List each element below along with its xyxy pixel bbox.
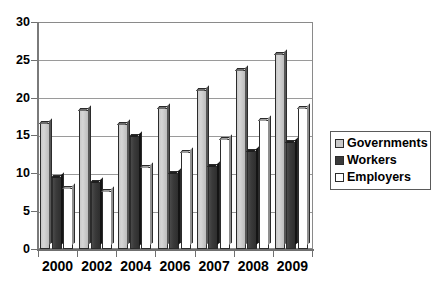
- x-tick-4: [195, 251, 196, 257]
- x-tick-2: [116, 251, 117, 257]
- legend-label-governments: Governments: [347, 137, 428, 150]
- gridline-15: [38, 136, 312, 137]
- gridline-10: [38, 174, 312, 175]
- y-axis-labels: 30 25 20 15 10 5 0: [0, 0, 30, 288]
- y-tick-15: [31, 135, 37, 136]
- legend-item-workers: Workers: [335, 152, 426, 168]
- legend-swatch-employers-icon: [335, 173, 344, 182]
- y-axis-label-5: 5: [2, 205, 30, 218]
- y-axis-label-30: 30: [2, 16, 30, 29]
- gridline-25: [38, 60, 312, 61]
- x-tick-1: [77, 251, 78, 257]
- y-axis-label-10: 10: [2, 167, 30, 180]
- plot-area: [37, 22, 313, 249]
- x-tick-5: [234, 251, 235, 257]
- legend-item-governments: Governments: [335, 135, 426, 151]
- y-tick-20: [31, 98, 37, 99]
- y-tick-5: [31, 211, 37, 212]
- x-axis-label-2006: 2006: [155, 259, 194, 273]
- legend-label-employers: Employers: [347, 171, 411, 184]
- x-axis-label-2002: 2002: [77, 259, 116, 273]
- gridline-20: [38, 98, 312, 99]
- legend-item-employers: Employers: [335, 169, 426, 185]
- legend-label-workers: Workers: [347, 154, 397, 167]
- y-axis-label-25: 25: [2, 54, 30, 67]
- y-tick-25: [31, 60, 37, 61]
- y-axis-label-15: 15: [2, 129, 30, 142]
- x-axis-label-2004: 2004: [116, 259, 155, 273]
- y-axis-label-0: 0: [2, 243, 30, 256]
- x-axis-label-2009: 2009: [273, 259, 312, 273]
- x-tick-3: [155, 251, 156, 257]
- x-axis-label-2000: 2000: [38, 259, 77, 273]
- x-tick-0: [38, 251, 39, 257]
- x-axis-label-2007: 2007: [195, 259, 234, 273]
- y-tick-10: [31, 173, 37, 174]
- y-tick-30: [31, 22, 37, 23]
- chart-legend: Governments Workers Employers: [330, 131, 431, 190]
- bar-chart: 30 25 20 15 10 5 0 200020022004200620072…: [0, 0, 437, 288]
- gridline-5: [38, 212, 312, 213]
- legend-swatch-workers-icon: [335, 156, 344, 165]
- x-tick-6: [273, 251, 274, 257]
- x-tick-end: [312, 251, 313, 257]
- y-axis-line: [37, 22, 39, 250]
- y-axis-label-20: 20: [2, 92, 30, 105]
- x-axis-label-2008: 2008: [234, 259, 273, 273]
- legend-swatch-governments-icon: [335, 139, 344, 148]
